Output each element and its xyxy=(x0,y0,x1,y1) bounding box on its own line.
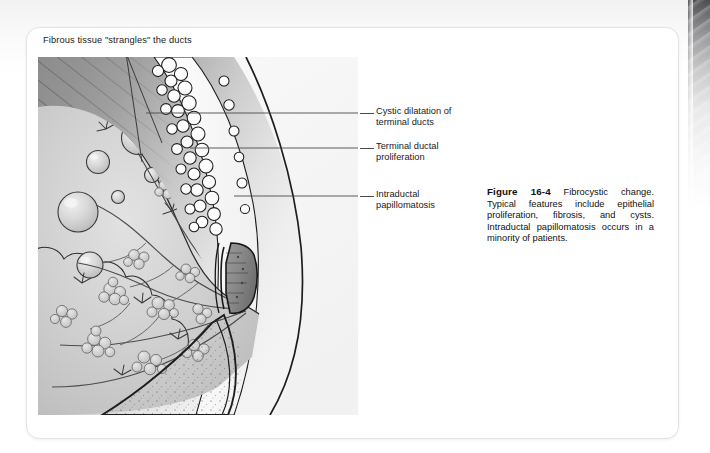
page-edge-streaks xyxy=(688,0,710,230)
adjacent-page-edge xyxy=(688,0,710,453)
callout-label-cystic-dilatation: Cystic dilatation of terminal ducts xyxy=(376,106,451,129)
leader-line-intraductal-papillomatosis xyxy=(360,196,374,197)
callout-label-fibrous-tissue: Fibrous tissue "strangles" the ducts xyxy=(43,35,192,45)
figure-page: Fibrous tissue "strangles" the ducts xyxy=(0,0,710,453)
figure-caption: Figure 16-4 Fibrocystic change. Typical … xyxy=(487,186,654,245)
callout-label-terminal-ductal-proliferation: Terminal ductal proliferation xyxy=(376,141,439,164)
figure-number: Figure 16-4 xyxy=(487,186,551,197)
illustration-vector xyxy=(38,57,358,415)
leader-line-cystic-dilatation xyxy=(360,113,374,114)
breast-cross-section-illustration xyxy=(38,57,358,415)
leader-line-terminal-ductal-proliferation xyxy=(360,148,374,149)
callout-label-intraductal-papillomatosis: Intraductal papillomatosis xyxy=(376,189,435,212)
